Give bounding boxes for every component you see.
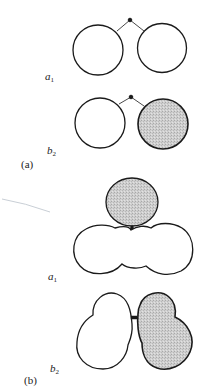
lobe-upper-shaded [106,178,158,226]
diagram-b-b2 [77,293,192,369]
stray-mark [2,199,50,212]
orbital-left-unshaded [73,25,123,75]
bond-left [117,20,130,31]
bond-right [131,97,144,106]
panel-label-b: (b) [24,375,37,386]
cloud-lower-unshaded [74,224,193,275]
lobe-right-shaded [138,293,192,369]
panel-label-a: (a) [21,159,33,170]
state-label-a1-top: a1 [45,71,54,84]
state-label-a1-bottom: a1 [48,271,57,284]
bond-right [130,20,144,31]
diagram-a-a1 [73,18,187,75]
connector [131,316,137,319]
diagram-a-b2 [75,95,188,149]
diagram-b-a1 [74,178,193,274]
central-atom [129,95,133,99]
state-label-b2-top: b2 [47,145,56,158]
lobe-left-unshaded [77,293,132,369]
orbital-right-shaded [138,99,188,149]
state-label-b2-bottom: b2 [50,363,59,376]
orbital-right-unshaded [138,24,187,73]
central-atom [128,18,132,22]
orbital-diagram-figure [0,0,205,387]
orbital-left-unshaded [75,98,125,148]
